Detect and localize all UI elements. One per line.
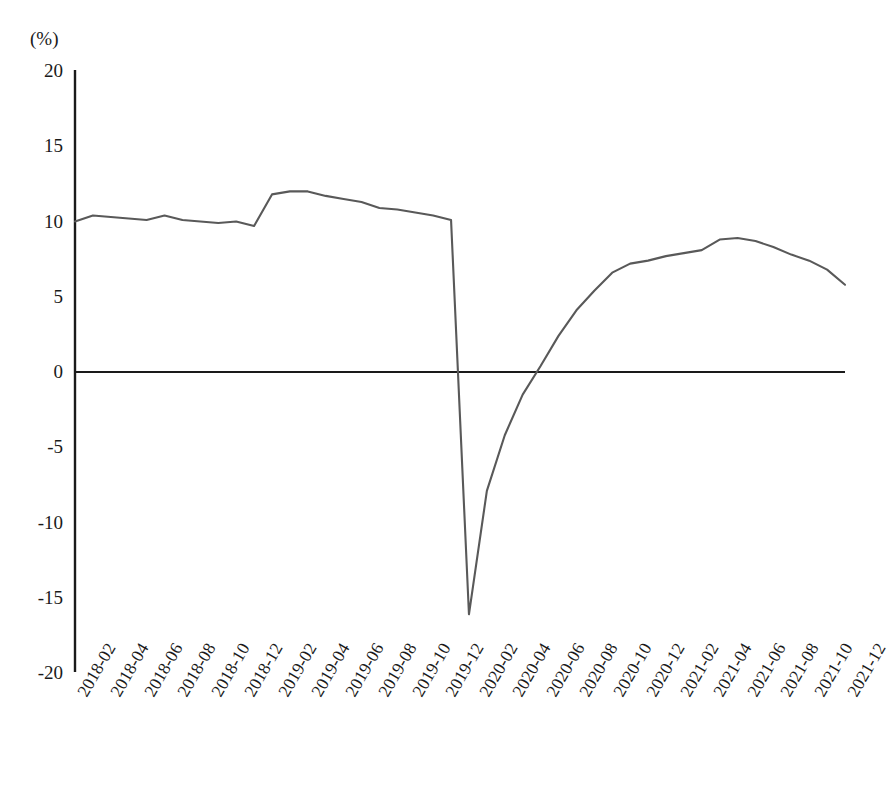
data-series-group [75, 191, 845, 614]
axes-group [75, 70, 845, 672]
data-series-line [75, 191, 845, 614]
